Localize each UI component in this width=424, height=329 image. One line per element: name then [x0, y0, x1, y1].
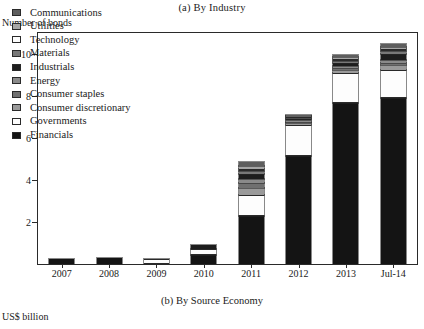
bar-segment-gov: [381, 70, 406, 98]
bar-segment-mat: [239, 171, 264, 174]
legend-item-cstap: Consumer staples: [12, 88, 131, 102]
bar-segment-mat: [286, 118, 311, 119]
bar-segment-fin: [49, 259, 74, 264]
legend-item-ener: Energy: [12, 74, 131, 88]
bar-segment-util: [239, 166, 264, 169]
legend-label: Governments: [30, 116, 87, 127]
legend-item-cdis: Consumer discretionary: [12, 101, 131, 115]
y-axis-tick-mark: [32, 180, 38, 181]
bar-segment-tech: [381, 49, 406, 51]
legend-label: Communications: [30, 8, 102, 19]
bar-segment-ener: [333, 66, 358, 68]
bar-segment-gov: [333, 73, 358, 103]
bar-segment-cstap: [286, 122, 311, 124]
bar-segment-fin: [286, 156, 311, 264]
bar-segment-cstap: [239, 183, 264, 188]
bar-segment-util: [286, 116, 311, 117]
bar-segment-util: [333, 57, 358, 59]
legend-label: Consumer discretionary: [30, 103, 131, 114]
legend-item-tech: Technology: [12, 33, 131, 47]
bar-segment-util: [381, 47, 406, 50]
y-axis-tick-label: 4: [7, 175, 31, 186]
bar-2007: [49, 259, 74, 264]
bar-segment-cdis: [381, 65, 406, 70]
bar-segment-cdis: [333, 70, 358, 73]
bar-segment-mat: [333, 61, 358, 63]
legend-swatch-cstap-icon: [12, 91, 21, 98]
panel-b-title: (b) By Source Economy: [0, 295, 424, 306]
bar-segment-mat: [381, 51, 406, 54]
bar-segment-gov: [239, 195, 264, 216]
bar-segment-gov: [144, 259, 169, 264]
legend-item-comm: Communications: [12, 6, 131, 20]
bar-segment-gov: [191, 249, 216, 255]
bar-segment-gov: [286, 125, 311, 155]
bar-segment-tech: [239, 169, 264, 172]
bar-segment-fin: [333, 103, 358, 264]
y-axis-tick-mark: [32, 222, 38, 223]
legend-label: Technology: [30, 35, 79, 46]
bar-segment-ind: [333, 63, 358, 66]
bar-2011: [239, 162, 264, 264]
bar-segment-ind: [286, 119, 311, 121]
bar-segment-cdis: [239, 188, 264, 195]
legend-label: Energy: [30, 76, 60, 87]
legend-swatch-fin-icon: [12, 132, 21, 139]
bar-segment-comm: [286, 115, 311, 116]
bar-segment-ener: [286, 120, 311, 121]
bar-segment-ener: [381, 60, 406, 63]
bar-segment-ind: [239, 174, 264, 179]
panel-b-unit-label: US$ billion: [2, 311, 48, 322]
legend-label: Consumer staples: [30, 89, 104, 100]
bar-segment-cstap: [381, 63, 406, 66]
legend-label: Financials: [30, 130, 73, 141]
bar-segment-comm: [381, 44, 406, 47]
bar-segment-fin: [381, 98, 406, 264]
bar-segment-fin: [191, 255, 216, 264]
legend-swatch-gov-icon: [12, 118, 21, 125]
bar-2010: [191, 245, 216, 264]
bar-2009: [144, 259, 169, 264]
legend-swatch-util-icon: [12, 23, 21, 30]
legend-label: Utilities: [30, 21, 64, 32]
bar-segment-ener: [239, 179, 264, 183]
legend-item-util: Utilities: [12, 20, 131, 34]
bar-segment-comm: [239, 162, 264, 165]
legend-item-fin: Financials: [12, 128, 131, 142]
bar-segment-comm: [333, 55, 358, 57]
bar-segment-ind: [381, 54, 406, 60]
bar-Jul-14: [381, 44, 406, 264]
legend-label: Industrials: [30, 62, 74, 73]
legend-item-mat: Materials: [12, 47, 131, 61]
y-axis-tick-label: 2: [7, 217, 31, 228]
bar-2012: [286, 115, 311, 264]
bar-segment-cstap: [333, 68, 358, 70]
legend-item-gov: Governments: [12, 115, 131, 129]
legend-swatch-mat-icon: [12, 50, 21, 57]
legend-item-ind: Industrials: [12, 60, 131, 74]
legend-swatch-tech-icon: [12, 36, 21, 43]
legend-label: Materials: [30, 48, 70, 59]
legend-swatch-comm-icon: [12, 9, 21, 16]
x-axis-tick-label: Jul-14: [363, 268, 423, 279]
legend-swatch-cdis-icon: [12, 104, 21, 111]
chart-legend: CommunicationsUtilitiesTechnologyMateria…: [12, 6, 131, 142]
legend-swatch-ind-icon: [12, 64, 21, 71]
bar-segment-fin: [239, 216, 264, 264]
bar-segment-cdis: [286, 123, 311, 125]
bar-segment-fin: [97, 258, 122, 264]
bar-2013: [333, 55, 358, 264]
bar-2008: [97, 258, 122, 264]
bar-segment-ind: [191, 245, 216, 249]
legend-swatch-ener-icon: [12, 77, 21, 84]
